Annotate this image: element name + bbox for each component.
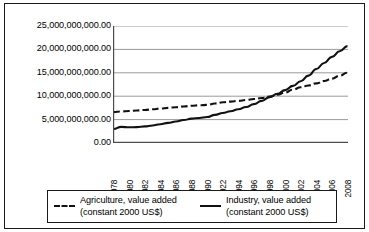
legend-entry-industry: Industry, value added (constant 2000 US$… — [200, 195, 336, 220]
y-tick-label: 20,000,000,000.00 — [11, 44, 111, 53]
legend-label-industry-line1: Industry, value added — [226, 195, 311, 207]
y-tick-label: 5,000,000,000.00 — [11, 115, 111, 124]
chart-frame: 25,000,000,000.0020,000,000,000.0015,000… — [4, 3, 365, 229]
legend-entry-agriculture: Agriculture, value added (constant 2000 … — [54, 195, 202, 220]
y-tick-label: 0.00 — [11, 138, 111, 147]
chart-figure: 25,000,000,000.0020,000,000,000.0015,000… — [0, 0, 369, 232]
legend-label-agriculture-line1: Agriculture, value added — [80, 195, 177, 207]
plot-svg — [113, 26, 348, 143]
plot-area — [113, 26, 348, 143]
y-tick-label: 15,000,000,000.00 — [11, 68, 111, 77]
data-series-group — [114, 46, 348, 129]
y-tick-label: 25,000,000,000.00 — [11, 21, 111, 30]
x-tick-label: 2008 — [344, 180, 353, 197]
legend-label-agriculture-line2: (constant 2000 US$) — [80, 207, 162, 219]
series-line-industry — [114, 46, 348, 129]
series-line-agriculture — [114, 73, 348, 112]
solid-line-swatch-icon — [200, 205, 221, 210]
chart-legend: Agriculture, value added (constant 2000 … — [47, 190, 337, 223]
dashed-line-swatch-icon — [54, 205, 75, 210]
y-axis: 25,000,000,000.0020,000,000,000.0015,000… — [11, 4, 111, 164]
y-tick-label: 10,000,000,000.00 — [11, 91, 111, 100]
legend-label-industry-line2: (constant 2000 US$) — [226, 207, 308, 219]
x-axis: 1978198019821984198619881990192219941996… — [113, 150, 348, 184]
